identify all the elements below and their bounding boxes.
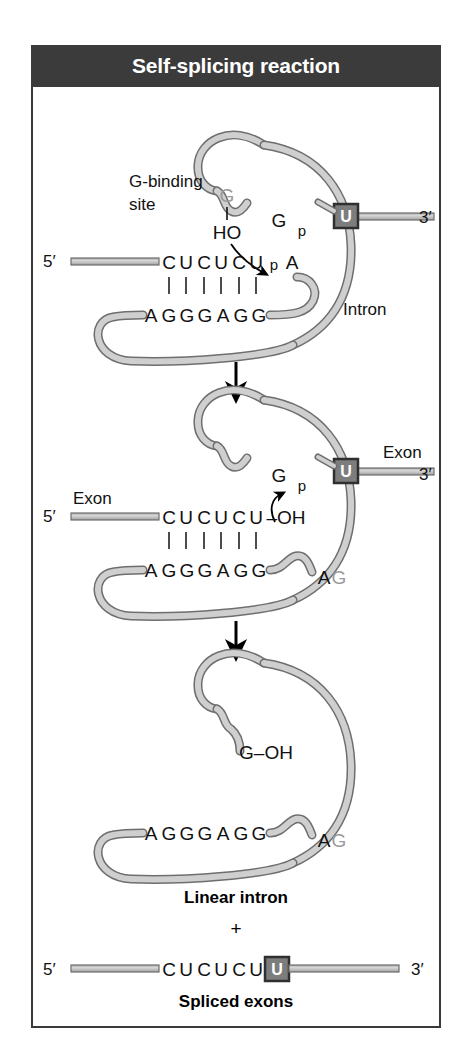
spliced-base: C bbox=[232, 959, 246, 980]
bottom-base: G bbox=[162, 305, 177, 326]
bottom-base: G bbox=[252, 823, 267, 844]
u-box-label-step2: U bbox=[340, 463, 352, 480]
hydroxyl-label: HO bbox=[213, 222, 242, 243]
bottom-base: A bbox=[145, 305, 158, 326]
step2-base-pairs bbox=[169, 532, 256, 549]
branch-p-label: p bbox=[270, 256, 278, 273]
exon-right-label-step2: Exon bbox=[383, 443, 422, 462]
plus-sign: + bbox=[230, 918, 241, 939]
spliced-five-prime-bar bbox=[71, 965, 159, 972]
intron-label-step1: Intron bbox=[343, 300, 386, 319]
bottom-base: G bbox=[234, 823, 249, 844]
intron-end-g-label-step3: G bbox=[332, 830, 347, 851]
g-binding-site-label-line1: G-binding bbox=[129, 172, 203, 191]
top-base: U bbox=[179, 507, 193, 528]
bottom-base: G bbox=[162, 823, 177, 844]
top-base: U bbox=[249, 252, 263, 273]
top-base: C bbox=[162, 507, 176, 528]
spliced-base: C bbox=[162, 959, 176, 980]
bottom-base: G bbox=[234, 560, 249, 581]
step2-five-prime-label: 5′ bbox=[43, 507, 56, 526]
bottom-base: G bbox=[180, 560, 195, 581]
top-base: C bbox=[232, 252, 246, 273]
bottom-base: A bbox=[145, 823, 158, 844]
spliced-base: U bbox=[249, 959, 263, 980]
bottom-base: G bbox=[162, 560, 177, 581]
bound-g-label: G bbox=[220, 185, 235, 206]
spliced-exons-label: Spliced exons bbox=[179, 992, 293, 1011]
u-box-label-spliced: U bbox=[271, 961, 283, 978]
bottom-base: G bbox=[198, 305, 213, 326]
bottom-base: G bbox=[234, 305, 249, 326]
step-1-group: 5′ 3′ U G-binding site G HO G p bbox=[43, 135, 434, 361]
step2-top-strand: C U C U C U bbox=[162, 507, 263, 528]
free-hydroxyl-label-step2: –OH bbox=[266, 507, 305, 528]
spliced-exons-group: 5′ C U C U C U U 3′ bbox=[43, 957, 424, 981]
branch-a-label: A bbox=[286, 252, 299, 273]
step1-five-prime-label: 5′ bbox=[43, 252, 56, 271]
diagram-canvas: 5′ 3′ U G-binding site G HO G p bbox=[31, 45, 441, 1028]
exon-left-label-step2: Exon bbox=[73, 489, 112, 508]
bottom-base: G bbox=[198, 823, 213, 844]
intron-g-label-step2: G bbox=[272, 465, 287, 486]
top-base: U bbox=[179, 252, 193, 273]
spliced-base: U bbox=[214, 959, 228, 980]
u-box-label-step1: U bbox=[340, 208, 352, 225]
step3-bottom-strand: A G G G A G G bbox=[145, 823, 267, 844]
spliced-three-prime-label: 3′ bbox=[411, 960, 424, 979]
bottom-base: A bbox=[145, 560, 158, 581]
spliced-three-prime-bar bbox=[289, 965, 399, 972]
bottom-base: G bbox=[180, 305, 195, 326]
step1-bottom-strand: A G G G A G G bbox=[145, 305, 267, 326]
intron-end-g-label-step2: G bbox=[332, 567, 347, 588]
step2-bottom-strand: A G G G A G G bbox=[145, 560, 267, 581]
bottom-base: G bbox=[252, 305, 267, 326]
intron-g-label-step1: G bbox=[272, 210, 287, 231]
five-prime-exon-bar bbox=[71, 258, 159, 265]
step-3-group: G–OH A G G G A G G A G bbox=[98, 653, 351, 879]
top-base: C bbox=[197, 507, 211, 528]
bottom-base: A bbox=[217, 823, 230, 844]
top-base: C bbox=[232, 507, 246, 528]
step1-base-pairs bbox=[169, 277, 256, 294]
step1-three-prime-label: 3′ bbox=[419, 208, 432, 227]
phosphate-label-step2: p bbox=[298, 477, 306, 494]
spliced-base: U bbox=[179, 959, 193, 980]
linear-intron-label: Linear intron bbox=[184, 888, 288, 907]
bottom-base: G bbox=[252, 560, 267, 581]
phosphate-label-step1: p bbox=[298, 222, 306, 239]
bottom-base: G bbox=[198, 560, 213, 581]
spliced-five-prime-label: 5′ bbox=[43, 960, 56, 979]
step2-three-prime-label: 3′ bbox=[419, 465, 432, 484]
g-binding-site-label-line2: site bbox=[129, 195, 155, 214]
bottom-base: A bbox=[217, 560, 230, 581]
top-base: U bbox=[214, 507, 228, 528]
five-prime-exon-bar-step2 bbox=[71, 513, 159, 520]
bottom-base: A bbox=[217, 305, 230, 326]
intron-end-a-label-step3: A bbox=[318, 830, 331, 851]
self-splicing-figure: Self-splicing reaction bbox=[0, 0, 472, 1056]
bottom-base: G bbox=[180, 823, 195, 844]
top-base: C bbox=[197, 252, 211, 273]
top-base: U bbox=[249, 507, 263, 528]
top-base: U bbox=[214, 252, 228, 273]
spliced-base: C bbox=[197, 959, 211, 980]
intron-end-a-label-step2: A bbox=[318, 567, 331, 588]
top-base: C bbox=[162, 252, 176, 273]
g-hydroxyl-label-step3: G–OH bbox=[239, 742, 293, 763]
step-2-group: 5′ Exon 3′ Exon U G p C U C U C U –OH bbox=[43, 390, 434, 616]
